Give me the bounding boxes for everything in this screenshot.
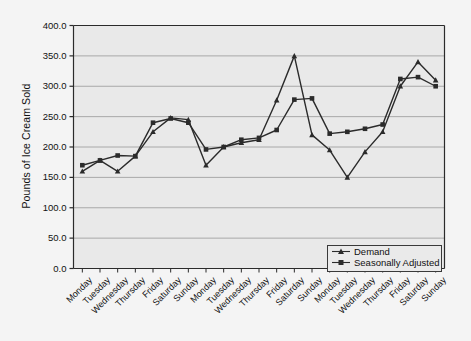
legend-label-demand: Demand [354, 246, 390, 257]
data-point-marker [398, 77, 403, 82]
data-point-marker [133, 154, 138, 159]
data-point-marker [239, 137, 244, 142]
data-point-marker [80, 163, 85, 168]
data-point-marker [151, 120, 156, 125]
legend-item-demand: Demand [328, 246, 441, 257]
data-point-marker [115, 153, 120, 158]
data-point-marker [363, 126, 368, 131]
legend-item-seasonally-adjusted: Seasonally Adjusted [328, 257, 441, 268]
legend-label-seasonally-adjusted: Seasonally Adjusted [354, 257, 440, 268]
chart-legend: Demand Seasonally Adjusted [327, 245, 442, 272]
legend-marker-square-icon [331, 258, 351, 267]
data-point-marker [292, 97, 297, 102]
data-point-marker [98, 158, 103, 163]
data-point-marker [204, 147, 209, 152]
data-point-marker [310, 96, 315, 101]
data-point-marker [221, 145, 226, 150]
data-point-marker [274, 128, 279, 133]
data-point-marker [168, 116, 173, 121]
legend-marker-triangle-icon [331, 247, 351, 256]
ice-cream-demand-chart: Pounds of Ice Cream Sold 0.050.0100.0150… [0, 0, 471, 341]
data-point-marker [186, 120, 191, 125]
data-point-marker [416, 75, 421, 80]
data-point-marker [380, 122, 385, 127]
data-point-marker [433, 84, 438, 89]
data-point-marker [327, 131, 332, 136]
data-point-marker [257, 136, 262, 141]
data-point-marker [345, 130, 350, 135]
